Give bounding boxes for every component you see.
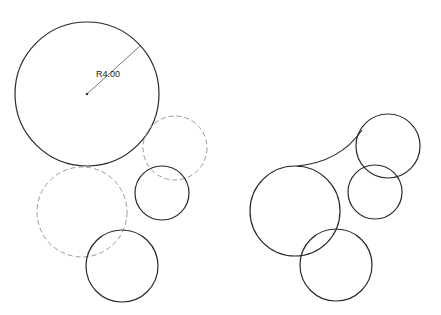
left-bottom-circle[interactable] [86,230,158,302]
right-bottom-circle[interactable] [300,229,372,301]
left-small-circle[interactable] [135,166,189,220]
left-circle-group [15,22,207,302]
right-middle-small-circle[interactable] [348,165,402,219]
right-circle-group [250,114,420,301]
left-dashed-circle-lower[interactable] [37,167,127,257]
left-dashed-circle-upper[interactable] [143,116,207,180]
right-large-circle[interactable] [250,166,340,256]
radius-dimension[interactable]: R4.00 [86,46,140,95]
center-point[interactable] [86,93,89,96]
sketch-canvas[interactable]: R4.00 [0,0,441,315]
fillet-arc[interactable] [297,130,362,166]
radius-dimension-label[interactable]: R4.00 [96,69,120,79]
